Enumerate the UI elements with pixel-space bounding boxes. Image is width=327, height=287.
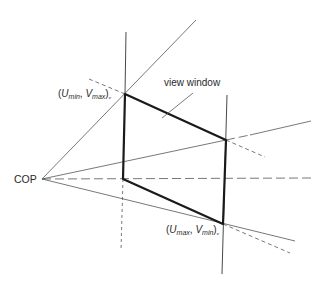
perspective-view-window-diagram <box>0 0 327 287</box>
left-vertical-line <box>125 32 126 94</box>
v-subscript: min <box>202 229 213 236</box>
cop-label: COP <box>14 174 37 185</box>
cop-label-text: COP <box>14 173 37 185</box>
coord-system-subscript: ᵥ <box>109 93 112 100</box>
view-window-label-text: view window <box>164 77 220 88</box>
top-left-corner-label: (Umin, Vmax)ᵥ <box>58 89 111 100</box>
view-window-label: view window <box>164 78 220 88</box>
ray-cop-top-right-far <box>250 121 311 135</box>
view-window-leader <box>162 93 193 118</box>
u-symbol: U <box>169 224 176 235</box>
left-vertical-dashed-extension <box>121 179 123 250</box>
bottom-edge-extension-right <box>223 224 290 253</box>
ray-cop-top-right-solid <box>42 140 226 179</box>
top-edge-extension-right <box>226 140 265 157</box>
bottom-right-corner-label: (Umax, Vmin)ᵥ <box>166 225 219 236</box>
v-subscript: max <box>92 93 105 100</box>
view-window-outline <box>123 94 226 224</box>
center-axis-dashed <box>42 178 313 179</box>
u-symbol: U <box>61 88 68 99</box>
ray-cop-top-right-extension <box>226 135 250 140</box>
u-subscript: max <box>177 229 190 236</box>
u-subscript: min <box>69 93 80 100</box>
coord-system-subscript: ᵥ <box>217 229 220 236</box>
